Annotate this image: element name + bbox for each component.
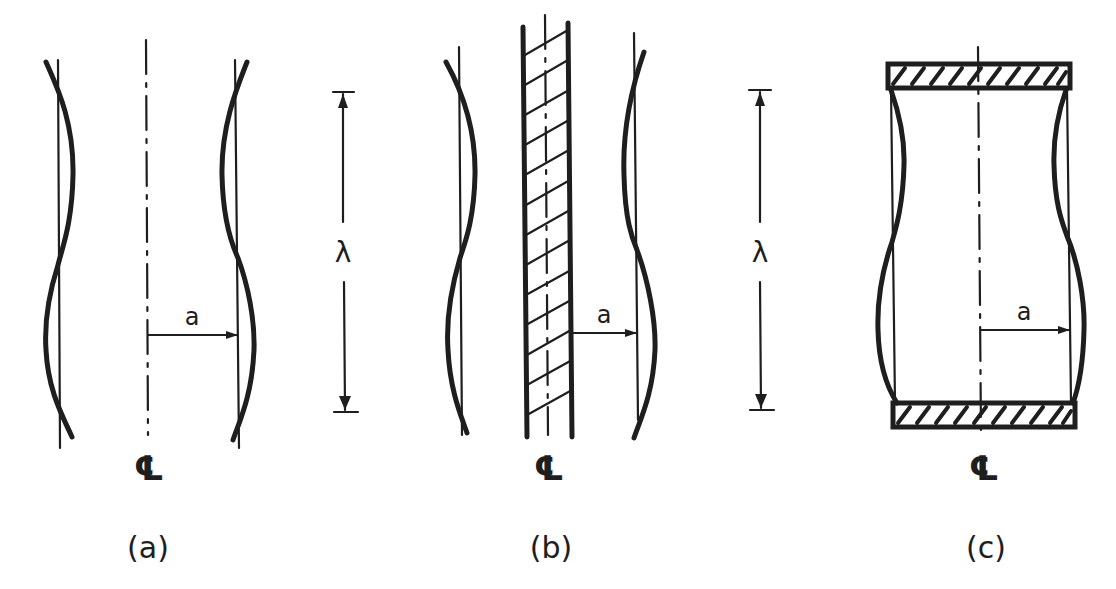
panel-b: a λ ℄ (b)	[446, 15, 774, 565]
centerline-symbol-c: ℄	[969, 448, 999, 488]
solid-core-hatched	[523, 15, 572, 437]
annulus-left-unperturbed-line	[459, 47, 462, 435]
panel-caption-b: (b)	[530, 530, 572, 565]
annulus-right-perturbed-surface	[624, 52, 655, 438]
centerline-symbol-a: ℄	[134, 448, 164, 488]
centerline-a	[146, 40, 148, 435]
wavelength-label-b: λ	[752, 236, 769, 269]
radius-label-a: a	[185, 303, 200, 331]
radius-label-b: a	[597, 301, 612, 329]
panel-c: a ℄ (c)	[878, 47, 1084, 565]
panel-caption-c: (c)	[966, 530, 1006, 565]
panel-a: a λ ℄ (a)	[46, 40, 358, 565]
wavelength-label-a: λ	[335, 236, 352, 269]
radius-label-c: a	[1017, 298, 1032, 326]
centerline-symbol-b: ℄	[534, 448, 564, 488]
panel-caption-a: (a)	[127, 530, 169, 565]
bottom-end-plate	[893, 403, 1075, 427]
bridge-right-perturbed-surface	[1054, 90, 1084, 403]
figure-canvas: a λ ℄ (a)	[0, 0, 1116, 589]
centerline-c	[978, 47, 981, 437]
